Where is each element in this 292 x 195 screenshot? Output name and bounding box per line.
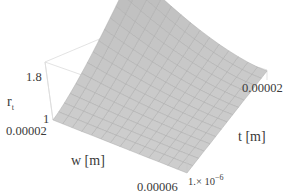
w-tick-left: 0.00002 [6, 125, 47, 138]
t-tick-front-exp: −6 [215, 173, 224, 182]
w-axis-label: w [m] [71, 154, 105, 168]
t-tick-back: 0.00002 [242, 82, 283, 95]
z-tick-1-8: 1.8 [26, 71, 42, 84]
t-tick-front: 1.× 10−6 [188, 174, 223, 187]
z-axis-label-sub: t [12, 103, 14, 112]
z-axis-label: rt [7, 95, 14, 112]
t-tick-front-mantissa: 1.× 10 [188, 176, 215, 187]
t-axis-label: t [m] [238, 130, 266, 144]
surface-mesh [53, 0, 267, 173]
w-tick-right: 0.00006 [137, 181, 178, 194]
surface-plot [0, 0, 292, 195]
